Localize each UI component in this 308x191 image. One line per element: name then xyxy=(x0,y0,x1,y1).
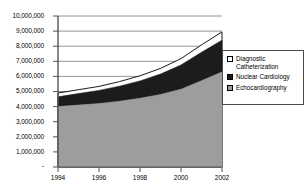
area-chart: 10,000,000 9,000,000 8,000,000 7,000,000… xyxy=(0,0,308,191)
legend-swatch-icon xyxy=(227,74,233,80)
x-tick-label: 1994 xyxy=(43,174,73,181)
x-tick-label: 1996 xyxy=(84,174,114,181)
x-tick-label: 1998 xyxy=(125,174,155,181)
legend-swatch-icon xyxy=(227,56,233,62)
legend-label: Echocardiography xyxy=(236,84,287,92)
legend-item-diagnostic-catheterization: Diagnostic Catheterization xyxy=(227,55,300,70)
legend-label: Nuclear Cardiology xyxy=(236,73,290,81)
legend-item-echocardiography: Echocardiography xyxy=(227,84,300,92)
y-axis-ticks xyxy=(53,16,58,167)
legend-swatch-icon xyxy=(227,85,233,91)
chart-legend: Diagnostic Catheterization Nuclear Cardi… xyxy=(222,50,304,105)
x-tick-label: 2000 xyxy=(166,174,196,181)
x-tick-label: 2002 xyxy=(207,174,237,181)
legend-label: Diagnostic Catheterization xyxy=(236,55,278,70)
x-axis-ticks xyxy=(58,167,222,172)
legend-item-nuclear-cardiology: Nuclear Cardiology xyxy=(227,73,300,81)
